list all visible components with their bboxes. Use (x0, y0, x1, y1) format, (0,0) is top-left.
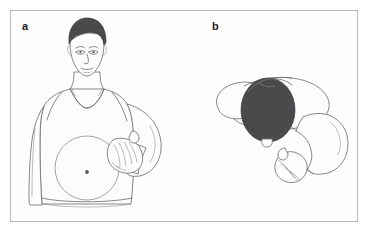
panel-label-b: b (212, 21, 219, 32)
panel-label-a: a (22, 21, 28, 32)
figure-frame (10, 10, 358, 222)
figure-root: a b (0, 0, 372, 240)
